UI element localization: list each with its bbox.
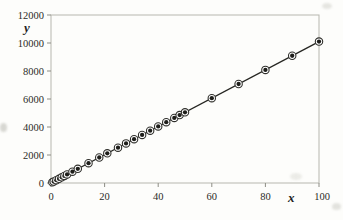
data-point xyxy=(148,128,152,132)
data-point xyxy=(86,161,90,165)
data-point xyxy=(97,155,101,159)
chart-canvas: 020406080100020004000600080001000012000 xyxy=(0,0,343,220)
x-tick-label: 60 xyxy=(207,191,218,202)
data-point xyxy=(116,146,120,150)
data-point xyxy=(156,124,160,128)
data-point xyxy=(164,120,168,124)
data-point xyxy=(317,39,321,43)
data-point xyxy=(290,54,294,58)
data-point xyxy=(183,110,187,114)
x-tick-label: 80 xyxy=(260,191,271,202)
y-tick-label: 6000 xyxy=(23,94,44,105)
data-point xyxy=(263,68,267,72)
y-tick-label: 12000 xyxy=(18,10,44,21)
y-tick-label: 0 xyxy=(39,178,44,189)
y-tick-label: 2000 xyxy=(23,150,44,161)
data-point xyxy=(140,133,144,137)
x-tick-label: 0 xyxy=(48,191,53,202)
data-point xyxy=(132,137,136,141)
plot-frame xyxy=(51,15,319,183)
y-tick-label: 10000 xyxy=(18,38,44,49)
data-point xyxy=(105,151,109,155)
scatter-plot-figure: 020406080100020004000600080001000012000 … xyxy=(0,0,343,220)
y-tick-label: 4000 xyxy=(23,122,44,133)
x-tick-label: 40 xyxy=(153,191,164,202)
data-point xyxy=(210,96,214,100)
y-tick-label: 8000 xyxy=(23,66,44,77)
data-point xyxy=(124,141,128,145)
data-point xyxy=(76,167,80,171)
x-axis-label: x xyxy=(288,191,295,204)
x-tick-label: 20 xyxy=(99,191,110,202)
y-axis-label: y xyxy=(24,21,30,34)
data-point xyxy=(236,82,240,86)
x-tick-label: 100 xyxy=(314,191,330,202)
